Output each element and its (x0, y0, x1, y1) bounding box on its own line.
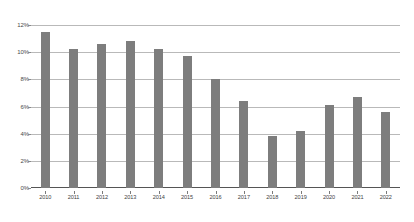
x-tick-label-2021: 2021 (342, 194, 372, 200)
y-tick-label: 10% (3, 49, 29, 55)
bar-2017 (239, 101, 248, 188)
bar-2016 (211, 79, 220, 188)
y-tick-mark (28, 134, 31, 135)
bar-2013 (126, 41, 135, 188)
y-tick-label: 8% (3, 76, 29, 82)
bar-2020 (325, 105, 334, 188)
bar-chart: 12%10%8%6%4%2%0% 20102011201220132014201… (0, 0, 414, 222)
bar-2015 (183, 56, 192, 188)
y-tick-label: 0% (3, 185, 29, 191)
y-tick-label: 4% (3, 131, 29, 137)
x-tick-label-2019: 2019 (286, 194, 316, 200)
bar-2014 (154, 49, 163, 188)
x-tick-label-2011: 2011 (59, 194, 89, 200)
x-tick-label-2018: 2018 (257, 194, 287, 200)
y-tick-mark (28, 79, 31, 80)
gridline (31, 52, 400, 53)
bar-2011 (69, 49, 78, 188)
x-tick-label-2022: 2022 (371, 194, 401, 200)
bar-2022 (381, 112, 390, 188)
x-tick-label-2013: 2013 (115, 194, 145, 200)
y-tick-label: 6% (3, 104, 29, 110)
bar-2021 (353, 97, 362, 188)
y-tick-label: 2% (3, 158, 29, 164)
x-tick-label-2017: 2017 (229, 194, 259, 200)
x-tick-label-2012: 2012 (87, 194, 117, 200)
x-tick-label-2010: 2010 (30, 194, 60, 200)
x-axis: 2010201120122013201420152016201720182019… (31, 191, 400, 207)
gridline (31, 25, 400, 26)
y-tick-mark (28, 161, 31, 162)
y-tick-mark (28, 52, 31, 53)
y-tick-mark (28, 107, 31, 108)
y-axis: 12%10%8%6%4%2%0% (0, 25, 29, 188)
bar-2019 (296, 131, 305, 188)
x-tick-label-2015: 2015 (172, 194, 202, 200)
bar-2010 (41, 32, 50, 188)
y-tick-label: 12% (3, 22, 29, 28)
x-tick-label-2014: 2014 (144, 194, 174, 200)
x-tick-label-2016: 2016 (201, 194, 231, 200)
y-tick-mark (28, 25, 31, 26)
y-tick-mark (28, 188, 31, 189)
plot-area (31, 25, 400, 188)
bar-2012 (97, 44, 106, 188)
bar-2018 (268, 136, 277, 188)
x-tick-label-2020: 2020 (314, 194, 344, 200)
